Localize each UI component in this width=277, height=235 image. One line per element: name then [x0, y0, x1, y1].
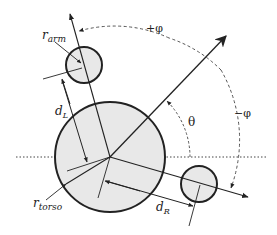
right-arm-circle	[181, 166, 217, 202]
r-torso-leader	[46, 184, 66, 200]
d-right-label: dR	[156, 200, 170, 216]
r-arm-label: rarm	[42, 28, 66, 44]
minus-phi-arc	[221, 70, 240, 188]
d-left-label: dL	[55, 104, 68, 120]
plus-phi-arc-lower	[169, 38, 221, 70]
theta-label: θ	[188, 115, 195, 129]
body-orientation-diagram: rarm dL rtorso dR θ +φ −φ	[0, 0, 277, 235]
heading-vector-arrow	[110, 36, 226, 157]
d-left-dimension-arrow-start	[62, 79, 70, 104]
plus-phi-label: +φ	[146, 22, 163, 35]
minus-phi-label: −φ	[234, 107, 251, 120]
theta-arc	[167, 101, 190, 157]
